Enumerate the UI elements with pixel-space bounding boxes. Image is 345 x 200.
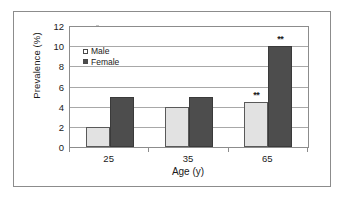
legend-swatch-female-icon: [83, 59, 88, 64]
bars-layer: ****: [70, 26, 308, 147]
legend-label-female: Female: [91, 57, 119, 68]
x-tick-mark: [228, 148, 229, 152]
x-tick-mark: [148, 148, 149, 152]
y-tick-label: 0: [59, 142, 64, 153]
y-tick-label: 8: [59, 61, 64, 72]
y-tick-label: 12: [53, 21, 64, 32]
plot-area: ****: [69, 26, 309, 148]
significance-annotation: **: [244, 91, 268, 100]
chart-legend: Male Female: [83, 46, 119, 67]
legend-item-female: Female: [83, 57, 119, 68]
x-tick-label: 65: [262, 153, 273, 164]
y-axis-tick-labels: 024681012: [44, 26, 64, 147]
legend-label-male: Male: [91, 46, 109, 57]
bar-male-35: [165, 107, 189, 147]
x-tick-label: 25: [103, 153, 114, 164]
x-tick-mark: [69, 148, 70, 152]
x-axis-title: Age (y): [69, 166, 307, 177]
bar-female-35: [189, 97, 213, 147]
legend-item-male: Male: [83, 46, 119, 57]
bar-group: ****: [229, 26, 308, 147]
x-tick-label: 35: [183, 153, 194, 164]
bar-male-65: [244, 102, 268, 147]
bar-female-65: [268, 46, 292, 147]
y-tick-label: 10: [53, 41, 64, 52]
y-tick-label: 6: [59, 81, 64, 92]
bar-group: [149, 26, 228, 147]
y-axis-title: Prevalence (%): [31, 10, 42, 122]
y-tick-label: 4: [59, 101, 64, 112]
bar-male-25: [86, 127, 110, 147]
bar-female-25: [110, 97, 134, 147]
legend-swatch-male-icon: [83, 49, 88, 54]
x-tick-mark: [307, 148, 308, 152]
significance-annotation: **: [268, 35, 292, 44]
figure-frame: Prevalence (%) 024681012 **** 253565 Age…: [13, 11, 331, 187]
bar-chart: Prevalence (%) 024681012 **** 253565 Age…: [14, 12, 330, 186]
y-tick-label: 2: [59, 121, 64, 132]
bar-group: [70, 26, 149, 147]
